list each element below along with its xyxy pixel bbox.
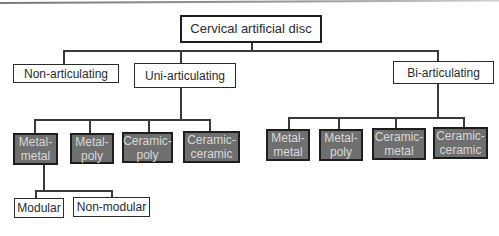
node-bi-ceramic-metal: Ceramic- metal bbox=[372, 128, 426, 160]
node-label-line1: Ceramic- bbox=[436, 129, 485, 143]
node-uni-ceramic-ceramic: Ceramic- ceramic bbox=[183, 131, 240, 163]
node-label: Modular bbox=[17, 201, 60, 215]
page-top-edge-line bbox=[0, 0, 499, 4]
connector-bi-articulating bbox=[437, 50, 439, 61]
node-bi-metal-metal: Metal- metal bbox=[266, 129, 310, 161]
node-uni-articulating: Uni-articulating bbox=[134, 63, 236, 88]
node-label: Non-modular bbox=[77, 200, 146, 214]
connector-non-articulating bbox=[63, 50, 65, 64]
connector-bi-stem bbox=[437, 84, 439, 118]
node-bi-ceramic-ceramic: Ceramic- ceramic bbox=[433, 127, 488, 159]
connector-bi-bar bbox=[288, 117, 464, 119]
node-label: Non-articulating bbox=[24, 67, 108, 81]
node-label-line1: Metal- bbox=[75, 135, 108, 149]
node-label-line1: Ceramic- bbox=[375, 130, 424, 144]
connector-uni-ceramic-ceramic bbox=[209, 119, 211, 131]
connector-bi-ceramic-ceramic bbox=[463, 117, 465, 127]
node-non-modular: Non-modular bbox=[73, 197, 150, 217]
connector-uni-articulating bbox=[180, 50, 182, 63]
node-bi-articulating: Bi-articulating bbox=[393, 61, 494, 84]
node-label-line1: Metal- bbox=[271, 131, 304, 145]
node-label: Cervical artificial disc bbox=[190, 22, 311, 36]
node-label-line2: metal bbox=[375, 144, 424, 158]
connector-modular bbox=[35, 190, 37, 198]
connector-uni-stem bbox=[180, 88, 182, 120]
connector-bi-metal-poly bbox=[338, 117, 340, 129]
node-label-line1: Ceramic- bbox=[123, 134, 172, 148]
node-uni-metal-metal: Metal- metal bbox=[13, 133, 58, 165]
node-bi-metal-poly: Metal- poly bbox=[319, 129, 363, 161]
connector-bi-ceramic-metal bbox=[395, 117, 397, 128]
node-label-line2: poly bbox=[75, 149, 108, 163]
node-modular: Modular bbox=[14, 198, 64, 218]
node-uni-metal-poly: Metal- poly bbox=[70, 133, 114, 164]
node-label-line1: Ceramic- bbox=[187, 133, 236, 147]
connector-level1-bar bbox=[63, 50, 439, 52]
connector-uni-metal-poly bbox=[89, 119, 91, 133]
node-label: Uni-articulating bbox=[145, 69, 225, 83]
node-label-line2: ceramic bbox=[187, 147, 236, 161]
node-label-line2: poly bbox=[324, 145, 357, 159]
connector-bi-metal-metal bbox=[288, 117, 290, 129]
connector-uni-ceramic-poly bbox=[148, 119, 150, 132]
connector-metal-metal-stem bbox=[43, 165, 45, 191]
node-label-line2: metal bbox=[19, 149, 52, 163]
node-label-line2: poly bbox=[123, 148, 172, 162]
node-label-line1: Metal- bbox=[324, 131, 357, 145]
node-label-line2: metal bbox=[271, 145, 304, 159]
node-non-articulating: Non-articulating bbox=[13, 64, 119, 83]
connector-non-modular bbox=[111, 190, 113, 197]
node-label: Bi-articulating bbox=[407, 66, 480, 80]
node-label-line2: ceramic bbox=[436, 143, 485, 157]
node-uni-ceramic-poly: Ceramic- poly bbox=[122, 132, 173, 163]
connector-uni-metal-metal bbox=[34, 119, 36, 133]
connector-modular-bar bbox=[35, 190, 113, 192]
connector-uni-bar bbox=[34, 119, 211, 121]
node-cervical-artificial-disc: Cervical artificial disc bbox=[180, 15, 322, 43]
node-label-line1: Metal- bbox=[19, 135, 52, 149]
